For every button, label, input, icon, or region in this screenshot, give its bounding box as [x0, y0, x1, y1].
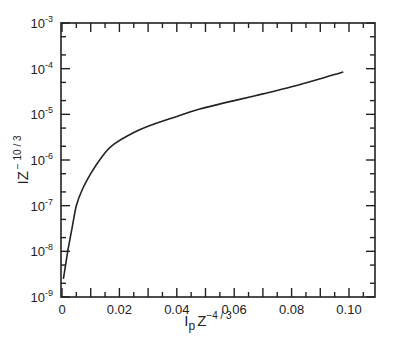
y-tick-label: 10-7 — [31, 197, 53, 214]
x-tick-label: 0.02 — [107, 302, 132, 317]
y-tick-label: 10-3 — [31, 14, 53, 31]
curve-line — [63, 72, 343, 279]
data-series — [63, 72, 343, 279]
y-tick-label: 10-5 — [31, 105, 53, 122]
x-axis-label: IpZ−4 / 3 — [184, 310, 232, 333]
y-tick-label: 10-6 — [31, 151, 53, 168]
y-tick-label: 10-8 — [31, 242, 53, 259]
x-tick-label: 0 — [58, 302, 65, 317]
y-tick-labels: 10-310-410-510-610-710-810-9 — [31, 14, 53, 305]
chart: 00.020.040.060.080.10 10-310-410-510-610… — [0, 0, 393, 343]
x-tick-label: 0.08 — [279, 302, 304, 317]
y-tick-label: 10-9 — [31, 288, 53, 305]
y-tick-label: 10-4 — [31, 60, 53, 77]
y-axis-label: IZ− 10 / 3 — [12, 135, 31, 184]
plot-border — [61, 23, 375, 297]
axis-ticks — [61, 23, 375, 297]
plot-frame — [61, 23, 375, 297]
x-tick-label: 0.10 — [336, 302, 361, 317]
